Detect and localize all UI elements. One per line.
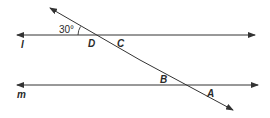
angle-30-label: 30° <box>59 25 74 35</box>
point-label-b: B <box>160 75 167 85</box>
angle-arc <box>78 27 81 36</box>
point-label-d: D <box>88 39 95 49</box>
line-label-m: m <box>17 90 26 100</box>
geometry-diagram <box>0 0 270 118</box>
line-label-l: l <box>21 40 24 50</box>
point-label-a: A <box>207 89 214 99</box>
point-label-c: C <box>117 39 124 49</box>
